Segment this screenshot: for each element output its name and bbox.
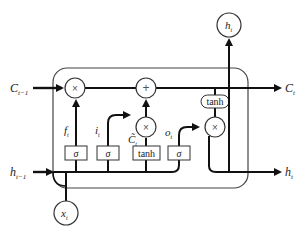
input-curve — [53, 172, 66, 186]
cell-state-prev-label: Ct−1 — [10, 81, 28, 97]
input-circle — [54, 201, 78, 225]
hidden-output-right-label: ht — [285, 165, 294, 181]
input-multiply-symbol: × — [143, 122, 149, 133]
input-gate-line — [108, 115, 129, 172]
hidden-prev-label: ht−1 — [10, 165, 26, 181]
output-gate-line — [179, 127, 198, 146]
hidden-concat-line — [53, 160, 179, 172]
forget-gate-label: ft — [64, 124, 69, 138]
candidate-activation: tanh — [138, 148, 155, 159]
input-gate-label: it — [95, 124, 100, 138]
lstm-diagram: σ ft σ it tanh C̃t × σ ot tanh × × + ht … — [0, 0, 297, 240]
candidate-label: C̃t — [128, 133, 137, 147]
forget-multiply-symbol: × — [72, 83, 78, 94]
cell-state-label: Ct — [285, 81, 296, 97]
add-symbol: + — [142, 81, 149, 95]
output-gate-label: ot — [165, 126, 173, 140]
tanh-label: tanh — [206, 96, 223, 107]
hidden-output-line — [209, 136, 280, 172]
output-multiply-symbol: × — [212, 122, 218, 133]
